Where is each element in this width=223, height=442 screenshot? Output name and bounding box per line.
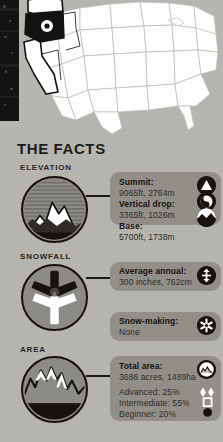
summit-value: 9065ft, 2764m xyxy=(119,188,175,199)
snowflake-icon xyxy=(21,264,88,331)
total-area-label: Total area: xyxy=(119,361,196,372)
average-annual-value: 300 inches, 762cm xyxy=(119,277,192,288)
connector-elevation xyxy=(86,195,112,197)
snowfall-average-pill: Average annual: 300 inches, 762cm xyxy=(110,262,221,290)
base-value: 5700ft, 1738m xyxy=(119,232,175,243)
summit-label: Summit: xyxy=(119,177,175,188)
usa-map xyxy=(18,0,223,134)
vertical-drop-label: Vertical drop: xyxy=(119,199,175,210)
connector-area xyxy=(86,375,112,377)
section-label-elevation: ELEVATION xyxy=(20,163,72,172)
advanced-percentage: Advanced: 25% xyxy=(119,387,190,398)
section-label-snowfall: SNOWFALL xyxy=(20,252,71,261)
state-oregon-highlighted xyxy=(25,11,64,42)
ski-resort-facts-infographic: THE FACTS ELEVATION xyxy=(0,0,223,442)
green-circle-icon xyxy=(199,407,215,418)
area-facts-pill: Total area: 3686 acres, 1489ha Advanced:… xyxy=(110,356,221,420)
vertical-drop-value: 3365ft, 1026m xyxy=(119,210,175,221)
snow-making-value: None xyxy=(119,327,178,338)
connector-snowfall xyxy=(86,277,112,279)
terrain-area-icon xyxy=(197,360,216,379)
mountain-peak-icon xyxy=(21,176,88,243)
snow-making-icon xyxy=(197,316,216,335)
photo-edge-strip xyxy=(0,0,19,121)
elevation-facts-pill: Summit: 9065ft, 2764m Vertical drop: 336… xyxy=(110,172,221,224)
total-area-value: 3686 acres, 1489ha xyxy=(119,372,196,383)
facts-heading: THE FACTS xyxy=(17,140,106,157)
base-label: Base: xyxy=(119,221,175,232)
beginner-percentage: Beginner: 20% xyxy=(119,409,190,420)
average-annual-label: Average annual: xyxy=(119,266,192,277)
location-map-panel xyxy=(0,0,223,134)
base-elevation-icon xyxy=(197,208,216,227)
section-label-area: AREA xyxy=(20,345,46,354)
snow-depth-icon xyxy=(197,266,216,285)
snow-making-label: Snow-making: xyxy=(119,316,178,327)
mountain-range-icon xyxy=(21,356,88,423)
facts-section: THE FACTS ELEVATION xyxy=(0,134,223,442)
intermediate-percentage: Intermediate: 55% xyxy=(119,398,190,409)
snow-making-pill: Snow-making: None xyxy=(110,312,221,340)
